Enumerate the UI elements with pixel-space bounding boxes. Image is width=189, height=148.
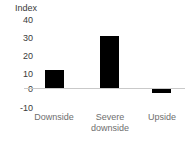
x-label-upside: Upside [130, 112, 189, 123]
x-label-upside-line1: Upside [130, 112, 189, 123]
x-label-downside-line1: Downside [22, 112, 86, 123]
bar-severe-downside [100, 36, 119, 88]
y-tick-label-40: 40 [11, 16, 33, 25]
x-label-downside: Downside [22, 112, 86, 123]
y-tick-label-0: 0 [11, 85, 33, 94]
y-tick-label-20: 20 [11, 52, 33, 61]
bar-upside [152, 89, 171, 93]
y-tick-label-10: 10 [11, 70, 33, 79]
bar-chart: Index 40 30 20 10 0 -10 Downside Severe … [0, 0, 189, 148]
bar-downside [45, 70, 64, 88]
plot-area: 40 30 20 10 0 -10 Downside Severe downsi… [0, 0, 189, 148]
x-label-severe-downside-line2: downside [78, 123, 142, 134]
y-tick-label-30: 30 [11, 34, 33, 43]
